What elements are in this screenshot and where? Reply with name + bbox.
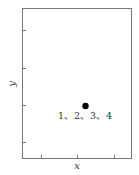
- x-axis-ticks: [42, 155, 115, 159]
- plot-frame: [23, 9, 132, 159]
- chart-canvas: 1、2、3、4 x y: [0, 0, 139, 175]
- x-axis-label: x: [74, 160, 80, 171]
- data-point: [82, 103, 88, 109]
- y-axis-label: y: [6, 81, 17, 88]
- y-axis-ticks: [23, 31, 27, 143]
- point-label: 1、2、3、4: [58, 110, 112, 121]
